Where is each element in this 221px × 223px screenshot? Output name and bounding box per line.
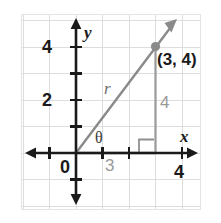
vertical-leg-label: 4 xyxy=(160,94,169,111)
y-axis-label: y xyxy=(84,24,92,41)
y-axis-arrow-down xyxy=(71,194,82,205)
figure-screenshot: 4 2 0 4 y x (3, 4) r θ 3 4 xyxy=(0,0,221,223)
origin-label: 0 xyxy=(60,158,70,176)
horizontal-leg-label: 3 xyxy=(105,157,114,174)
y-axis-tick-label-4: 4 xyxy=(42,38,52,56)
x-axis-arrow-right xyxy=(187,148,198,159)
point-label: (3, 4) xyxy=(157,51,197,68)
y-axis-arrow-up xyxy=(71,18,82,29)
x-axis-label: x xyxy=(180,128,189,145)
angle-label-theta: θ xyxy=(95,130,103,146)
x-axis-tick-label-4: 4 xyxy=(174,163,184,181)
hypotenuse-label-r: r xyxy=(104,80,111,97)
x-axis-arrow-left xyxy=(25,148,36,159)
y-axis-tick-label-2: 2 xyxy=(42,91,52,109)
coordinate-axes xyxy=(0,0,221,223)
